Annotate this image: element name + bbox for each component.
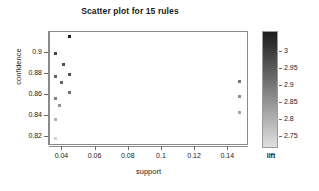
- x-tick-mark: [227, 146, 228, 150]
- lift-colorbar-legend: [262, 31, 278, 148]
- x-tick-label: 0.14: [207, 152, 247, 159]
- colorbar-tick-mark: [279, 136, 282, 137]
- x-tick-mark: [161, 146, 162, 150]
- data-point: [58, 104, 61, 107]
- data-point: [54, 52, 57, 55]
- y-tick-mark: [44, 94, 48, 95]
- x-tick-mark: [194, 146, 195, 150]
- colorbar-tick-label: 3: [284, 47, 288, 54]
- x-tick-mark: [61, 146, 62, 150]
- data-point: [68, 73, 71, 76]
- data-point: [54, 97, 57, 100]
- y-axis-title: confidence: [14, 37, 23, 97]
- y-tick-mark: [44, 115, 48, 116]
- colorbar-tick-label: 2.85: [284, 98, 298, 105]
- x-axis-line: [49, 146, 248, 147]
- y-tick-label: 0.84: [0, 111, 42, 118]
- y-tick-mark: [44, 136, 48, 137]
- plot-panel: [49, 31, 248, 145]
- scatter-plot-figure: Scatter plot for 15 rules 0.820.840.860.…: [0, 0, 319, 191]
- x-tick-mark: [95, 146, 96, 150]
- colorbar-gradient: [262, 31, 278, 148]
- colorbar-tick-label: 2.8: [284, 115, 294, 122]
- data-point: [238, 95, 241, 98]
- colorbar-tick-mark: [279, 85, 282, 86]
- data-point: [238, 111, 241, 114]
- y-tick-mark: [44, 52, 48, 53]
- data-point: [60, 81, 63, 84]
- colorbar-tick-mark: [279, 51, 282, 52]
- chart-title: Scatter plot for 15 rules: [0, 6, 260, 16]
- colorbar-tick-label: 2.75: [284, 132, 298, 139]
- data-point: [54, 137, 57, 140]
- data-points-layer: [50, 32, 247, 144]
- colorbar-tick-label: 2.9: [284, 81, 294, 88]
- x-axis-title: support: [49, 167, 248, 176]
- colorbar-tick-mark: [279, 119, 282, 120]
- colorbar-tick-label: 2.95: [284, 64, 298, 71]
- data-point: [238, 80, 241, 83]
- data-point: [62, 63, 65, 66]
- y-tick-mark: [44, 73, 48, 74]
- data-point: [54, 75, 57, 78]
- y-tick-label: 0.82: [0, 132, 42, 139]
- colorbar-tick-mark: [279, 102, 282, 103]
- data-point: [54, 118, 57, 121]
- y-axis-line: [48, 31, 49, 145]
- x-tick-mark: [128, 146, 129, 150]
- colorbar-tick-mark: [279, 68, 282, 69]
- data-point: [68, 91, 71, 94]
- data-point: [68, 35, 71, 38]
- legend-title: lift: [261, 152, 281, 159]
